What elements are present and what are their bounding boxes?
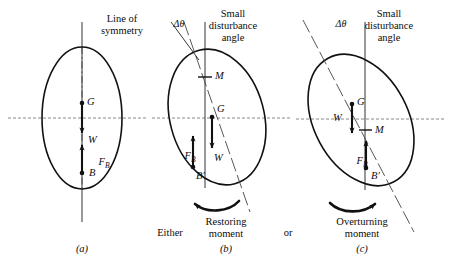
panel-a-title: Line of symmetry — [90, 13, 154, 37]
caption-a: (a) — [66, 243, 98, 255]
label-FB-b-sub: B — [191, 155, 196, 164]
label-G-c: G — [357, 96, 369, 108]
label-G-a: G — [87, 96, 99, 108]
label-G-b: G — [217, 103, 229, 115]
panel-b-title: Small disturbance angle — [196, 8, 270, 44]
panel-a — [42, 22, 122, 222]
label-B-a: B — [89, 167, 101, 179]
either-label: Either — [150, 227, 190, 239]
delta-theta-label-c: Δθ — [330, 18, 352, 30]
label-Bprime-b: B′ — [196, 170, 212, 182]
label-W-c: W — [333, 112, 347, 124]
restoring-moment-arrow — [195, 201, 239, 210]
buoyancy-stability-figure: Line of symmetry G W FB B (a) Small dist… — [0, 0, 450, 276]
panel-c-title: Small disturbance angle — [352, 8, 426, 44]
label-FB-b: FB — [174, 138, 194, 178]
or-label: or — [277, 227, 299, 239]
label-FB-c-sub: B — [363, 160, 368, 169]
overturning-moment-arrow — [330, 203, 375, 211]
label-Bprime-c: B′ — [371, 170, 387, 182]
delta-theta-label-b: Δθ — [168, 18, 190, 30]
waterline-group — [8, 118, 444, 119]
overturning-moment-label: Overturning moment — [320, 216, 404, 240]
tilted-axis-c — [303, 20, 414, 232]
panel-b — [154, 22, 281, 212]
label-W-b: W — [214, 152, 228, 164]
label-FB-c: FB — [346, 143, 366, 183]
label-M-c: M — [375, 124, 389, 136]
restoring-moment-label: Restoring moment — [192, 216, 260, 240]
label-M-b: M — [215, 70, 229, 82]
label-FB-a-sub: B — [105, 161, 110, 170]
caption-c: (c) — [346, 243, 378, 255]
panel-c — [287, 20, 436, 232]
caption-b: (b) — [210, 243, 242, 255]
